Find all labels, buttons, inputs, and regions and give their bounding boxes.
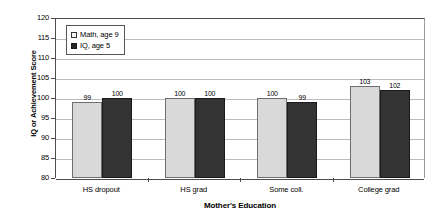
x-tick-label: Some coll.	[241, 186, 331, 194]
y-tick-mark	[51, 18, 55, 19]
y-tick-label: 85	[19, 154, 49, 162]
bar	[380, 90, 410, 178]
gridline	[56, 59, 424, 60]
bar-value-label: 102	[374, 82, 416, 89]
legend-item-math: Math, age 9	[71, 29, 119, 40]
y-tick-mark	[51, 78, 55, 79]
y-tick-label: 120	[19, 14, 49, 22]
y-tick-mark	[51, 158, 55, 159]
y-tick-label: 100	[19, 94, 49, 102]
y-tick-mark	[51, 98, 55, 99]
y-tick-mark	[51, 38, 55, 39]
legend-item-iq: IQ, age 5	[71, 40, 119, 51]
x-tick-label: HS dropout	[56, 186, 146, 194]
legend-label-math: Math, age 9	[80, 31, 119, 39]
legend: Math, age 9 IQ, age 5	[66, 25, 125, 55]
y-tick-mark	[51, 118, 55, 119]
bar	[165, 98, 195, 178]
y-tick-mark	[51, 58, 55, 59]
x-axis-title: Mother's Education	[55, 201, 425, 210]
x-tick-mark	[333, 178, 334, 182]
bar	[350, 86, 380, 178]
bar	[287, 102, 317, 178]
y-tick-mark	[51, 178, 55, 179]
legend-swatch-iq-icon	[71, 43, 77, 49]
y-tick-label: 105	[19, 74, 49, 82]
bar	[102, 98, 132, 178]
y-tick-label: 80	[19, 174, 49, 182]
legend-label-iq: IQ, age 5	[80, 42, 110, 50]
bar	[257, 98, 287, 178]
y-tick-label: 110	[19, 54, 49, 62]
y-tick-label: 95	[19, 114, 49, 122]
x-tick-label: College grad	[334, 186, 424, 194]
y-tick-label: 115	[19, 34, 49, 42]
bar-value-label: 100	[96, 90, 138, 97]
bar-value-label: 100	[189, 90, 231, 97]
bar-chart: IQ or Achievement Score 9910010010010099…	[0, 0, 439, 217]
legend-swatch-math-icon	[71, 32, 77, 38]
x-tick-mark	[240, 178, 241, 182]
y-tick-label: 90	[19, 134, 49, 142]
x-tick-label: HS grad	[149, 186, 239, 194]
x-tick-mark	[148, 178, 149, 182]
bar	[195, 98, 225, 178]
y-tick-mark	[51, 138, 55, 139]
bar-value-label: 99	[281, 94, 323, 101]
bar	[72, 102, 102, 178]
